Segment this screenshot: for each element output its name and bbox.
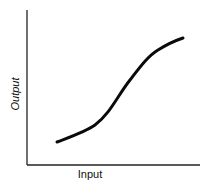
sigmoid-chart [0,0,207,191]
y-axis-label: Output [9,69,21,119]
sigmoid-curve [57,38,183,142]
x-axis-label: Input [70,168,110,180]
